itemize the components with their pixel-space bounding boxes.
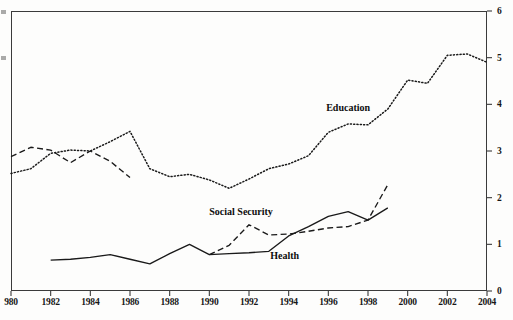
x-tick-label-1988: 1988 bbox=[161, 297, 179, 307]
plot-frame bbox=[11, 11, 487, 291]
annotation-social-security: Social Security bbox=[209, 205, 273, 216]
x-tick-label-1994: 1994 bbox=[280, 297, 298, 307]
x-tick-label-2002: 2002 bbox=[438, 297, 456, 307]
x-tick-label-1998: 1998 bbox=[359, 297, 377, 307]
y-tick-label-1: 1 bbox=[497, 239, 502, 249]
y-tick-label-3: 3 bbox=[497, 146, 502, 156]
x-tick-label-1980: 980 bbox=[4, 297, 18, 307]
x-tick-label-2004: 2004 bbox=[478, 297, 496, 307]
y-tick-label-6: 6 bbox=[497, 6, 502, 16]
chart-canvas: 9801982198419861988199019921994199619982… bbox=[0, 0, 513, 320]
y-tick-label-4: 4 bbox=[497, 99, 502, 109]
y-tick-label-0: 0 bbox=[497, 286, 502, 296]
x-tick-label-1982: 1982 bbox=[42, 297, 60, 307]
annotation-health: Health bbox=[270, 249, 299, 260]
annotation-education: Education bbox=[326, 101, 370, 112]
x-tick-label-1996: 1996 bbox=[319, 297, 337, 307]
x-tick-label-1992: 1992 bbox=[240, 297, 258, 307]
y-tick-label-2: 2 bbox=[497, 193, 502, 203]
cropped-axis-mark-second bbox=[1, 56, 6, 60]
x-tick-label-1984: 1984 bbox=[81, 297, 99, 307]
cropped-axis-mark-top bbox=[1, 10, 6, 14]
x-tick-label-1990: 1990 bbox=[200, 297, 218, 307]
x-tick-label-2000: 2000 bbox=[399, 297, 417, 307]
x-tick-label-1986: 1986 bbox=[121, 297, 139, 307]
y-tick-label-5: 5 bbox=[497, 53, 502, 63]
